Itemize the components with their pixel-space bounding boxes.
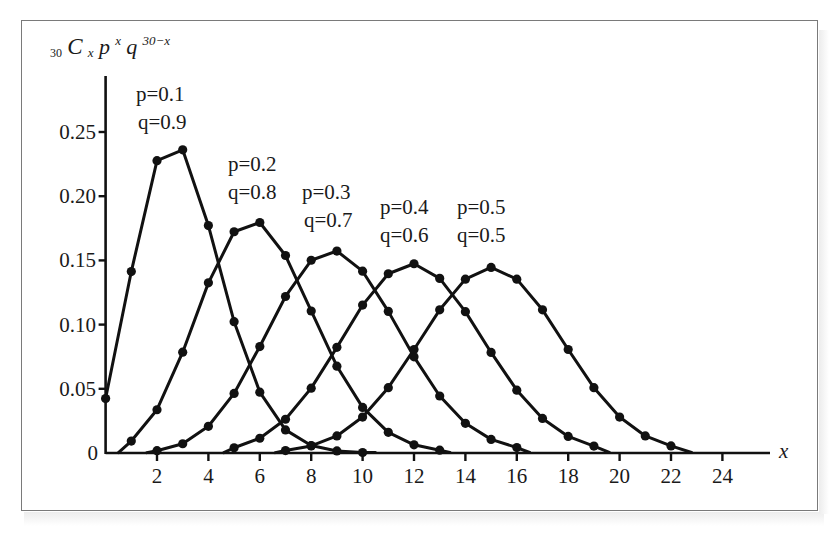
x-tick-label: 14 — [455, 464, 477, 488]
data-point — [564, 345, 573, 354]
data-point — [152, 405, 161, 414]
data-point — [384, 307, 393, 316]
y-tick-label: 0.15 — [59, 248, 96, 272]
data-point — [281, 251, 290, 260]
x-tick-label: 8 — [306, 464, 317, 488]
x-tick-label: 22 — [661, 464, 682, 488]
y-tick-label: 0 — [88, 441, 99, 465]
data-point — [435, 391, 444, 400]
x-tick-label: 4 — [203, 464, 214, 488]
y-axis-ticks: 00.050.100.150.200.25 — [59, 120, 105, 465]
series-lines — [101, 145, 692, 457]
data-point — [384, 383, 393, 392]
data-point — [487, 435, 496, 444]
data-point — [358, 448, 367, 457]
data-point — [487, 348, 496, 357]
x-tick-label: 16 — [506, 464, 527, 488]
data-point — [384, 269, 393, 278]
svg-text:p=0.4: p=0.4 — [380, 195, 429, 219]
data-point — [538, 305, 547, 314]
data-point — [204, 278, 213, 287]
annotation-p04: p=0.4 q=0.6 — [380, 195, 429, 247]
x-tick-label: 24 — [712, 464, 734, 488]
data-point — [255, 388, 264, 397]
series-line — [275, 267, 691, 452]
svg-text:p=0.1: p=0.1 — [136, 82, 185, 106]
data-point — [358, 412, 367, 421]
y-axis-label: 30 C x p x q 30−x — [50, 26, 170, 62]
data-point — [589, 383, 598, 392]
data-point — [564, 432, 573, 441]
x-axis-ticks: 24681012141618202224 — [152, 453, 734, 488]
svg-text:q=0.8: q=0.8 — [228, 180, 277, 204]
data-point — [332, 446, 341, 455]
svg-text:q=0.9: q=0.9 — [138, 110, 187, 134]
svg-text:q=0.5: q=0.5 — [457, 223, 506, 247]
data-point — [307, 306, 316, 315]
annotation-p05: p=0.5 q=0.5 — [457, 195, 506, 247]
data-point — [435, 446, 444, 455]
data-point — [461, 275, 470, 284]
data-point — [409, 259, 418, 268]
x-tick-label: 18 — [558, 464, 579, 488]
data-point — [512, 386, 521, 395]
data-point — [641, 431, 650, 440]
data-point — [435, 274, 444, 283]
annotation-p02: p=0.2 q=0.8 — [228, 152, 277, 204]
data-point — [538, 414, 547, 423]
data-point — [666, 441, 675, 450]
data-point — [230, 389, 239, 398]
svg-text:p=0.5: p=0.5 — [457, 195, 506, 219]
data-point — [230, 227, 239, 236]
data-point — [255, 342, 264, 351]
data-point — [255, 434, 264, 443]
data-point — [307, 384, 316, 393]
data-point — [281, 425, 290, 434]
svg-text:p=0.3: p=0.3 — [302, 180, 351, 204]
y-tick-label: 0.20 — [59, 184, 96, 208]
svg-text:q=0.7: q=0.7 — [304, 208, 353, 232]
data-point — [281, 446, 290, 455]
data-point — [307, 256, 316, 265]
data-point — [332, 431, 341, 440]
data-point — [178, 439, 187, 448]
series-5 — [275, 263, 691, 455]
y-tick-label: 0.05 — [59, 377, 96, 401]
data-point — [487, 263, 496, 272]
x-tick-label: 10 — [352, 464, 373, 488]
data-point — [204, 422, 213, 431]
data-point — [152, 446, 161, 455]
data-point — [409, 345, 418, 354]
svg-text:q=0.6: q=0.6 — [380, 223, 429, 247]
x-tick-label: 12 — [404, 464, 425, 488]
data-point — [281, 292, 290, 301]
data-point — [332, 246, 341, 255]
data-point — [307, 441, 316, 450]
data-point — [512, 443, 521, 452]
x-tick-label: 6 — [255, 464, 266, 488]
binomial-distribution-chart: 30 C x p x q 30−x 00.050.100.150.200.25 … — [0, 0, 839, 534]
data-point — [152, 156, 161, 165]
x-tick-label: 20 — [609, 464, 630, 488]
data-point — [332, 343, 341, 352]
y-tick-label: 0.25 — [59, 120, 96, 144]
data-point — [358, 403, 367, 412]
data-point — [204, 221, 213, 230]
data-point — [435, 305, 444, 314]
data-point — [127, 436, 136, 445]
data-point — [358, 267, 367, 276]
x-tick-label: 2 — [152, 464, 163, 488]
data-point — [178, 145, 187, 154]
data-point — [512, 275, 521, 284]
data-point — [461, 419, 470, 428]
y-tick-label: 0.10 — [59, 313, 96, 337]
data-point — [358, 300, 367, 309]
data-point — [230, 317, 239, 326]
data-point — [127, 267, 136, 276]
data-point — [461, 307, 470, 316]
annotation-p03: p=0.3 q=0.7 — [302, 180, 353, 232]
data-point — [332, 362, 341, 371]
data-point — [384, 428, 393, 437]
data-point — [230, 443, 239, 452]
x-axis-label: x — [778, 439, 789, 463]
